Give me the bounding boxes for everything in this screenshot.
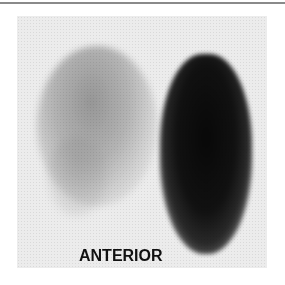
top-divider: [0, 2, 285, 4]
view-label: ANTERIOR: [79, 247, 163, 265]
image-grain: [17, 16, 267, 268]
scintigraphy-image: ANTERIOR: [17, 16, 267, 268]
